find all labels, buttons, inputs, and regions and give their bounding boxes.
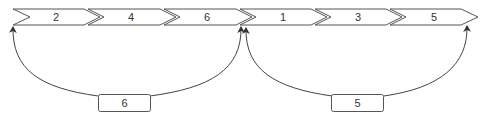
- svg-text:6: 6: [121, 97, 127, 109]
- chevron-4: 4: [88, 9, 176, 25]
- svg-text:5: 5: [431, 11, 437, 23]
- chevron-5: 5: [390, 9, 478, 25]
- svg-text:3: 3: [355, 11, 361, 23]
- chevron-6: 6: [164, 9, 252, 25]
- jump-label-box-5: 5: [332, 95, 384, 112]
- svg-text:5: 5: [354, 97, 360, 109]
- connector-spacer: [230, 30, 245, 60]
- jump-arrow-6: [13, 27, 241, 96]
- jump-arrow-5: [246, 26, 467, 96]
- svg-text:6: 6: [204, 11, 210, 23]
- svg-text:4: 4: [128, 11, 134, 23]
- jump-label-box-6: 6: [99, 95, 151, 112]
- svg-text:1: 1: [280, 11, 286, 23]
- process-diagram: 2 4 6 1 3 5 6 5: [0, 0, 484, 121]
- chevron-2: 2: [13, 9, 100, 25]
- svg-text:2: 2: [53, 11, 59, 23]
